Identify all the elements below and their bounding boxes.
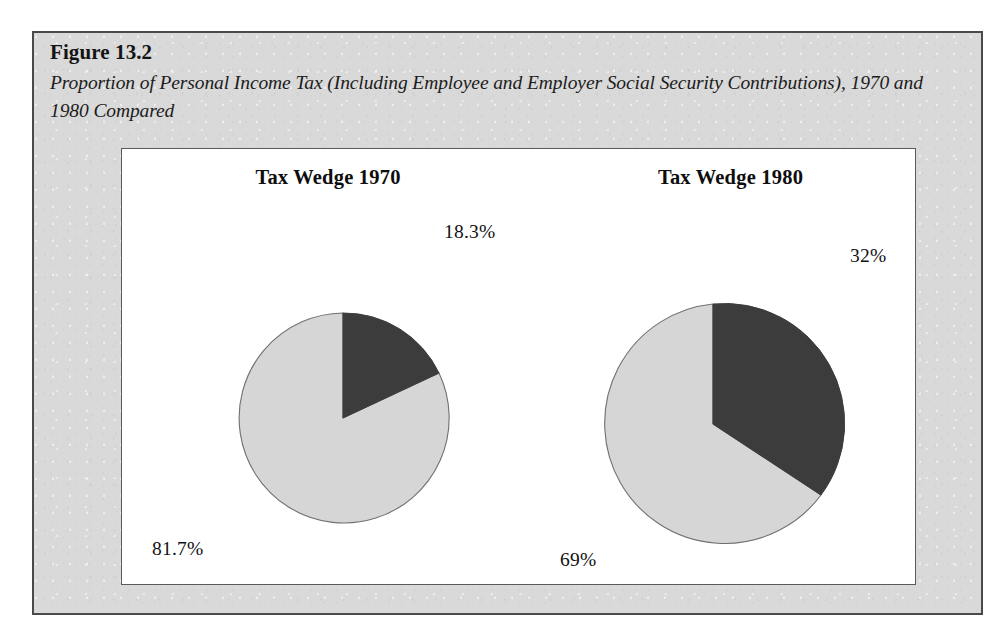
pie-1970-dark-value-label: 18.3% <box>444 221 495 243</box>
chart-plot-area: Tax Wedge 1970 18.3% 81.7% Tax Wedge 198… <box>121 148 916 585</box>
figure-panel: Figure 13.2 Proportion of Personal Incom… <box>32 31 983 615</box>
figure-number-label: Figure 13.2 <box>50 39 965 65</box>
figure-caption-block: Figure 13.2 Proportion of Personal Incom… <box>50 39 965 125</box>
pie-1970-graphic <box>122 149 522 586</box>
pie-1980-graphic <box>520 149 917 586</box>
pie-1980-light-value-label: 69% <box>560 549 596 571</box>
pie-chart-1970: Tax Wedge 1970 18.3% 81.7% <box>122 149 522 584</box>
figure-subtitle: Proportion of Personal Income Tax (Inclu… <box>50 69 950 124</box>
pie-1970-light-value-label: 81.7% <box>152 538 203 560</box>
pie-chart-1980: Tax Wedge 1980 32% 69% <box>520 149 917 584</box>
page-top-cut-text-strip <box>0 0 1008 14</box>
pie-1980-dark-value-label: 32% <box>850 245 886 267</box>
